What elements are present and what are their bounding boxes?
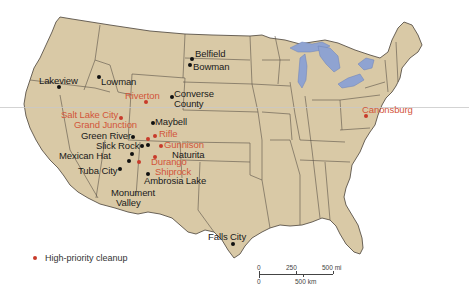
site-dot-rifle — [153, 134, 157, 138]
site-dot-shiprock — [137, 160, 141, 164]
site-label-rifle: Rifle — [159, 129, 178, 139]
site-label-mexican-hat: Mexican Hat — [59, 151, 111, 161]
site-dot-tuba-city — [118, 167, 122, 171]
legend-high-priority-label: High-priority cleanup — [45, 253, 128, 263]
scale-mi-500: 500 mi — [322, 264, 342, 271]
site-label-ambrosia-lake: Ambrosia Lake — [144, 176, 206, 186]
site-dot-naturita — [146, 143, 150, 147]
site-dot-slick-rock — [140, 144, 144, 148]
site-label-bowman: Bowman — [193, 62, 229, 72]
site-dot-mexican-hat — [130, 152, 134, 156]
site-label-lakeview: Lakeview — [39, 76, 78, 86]
site-dot-bowman — [188, 63, 192, 67]
scale-mi-250: 250 — [286, 264, 297, 271]
scale-tick — [303, 274, 304, 277]
scale-tick — [333, 271, 334, 274]
scale-km-0: 0 — [257, 278, 261, 285]
site-label-tuba-city: Tuba City — [78, 166, 117, 176]
site-label-belfield: Belfield — [195, 49, 225, 59]
site-dot-grand-junction — [146, 137, 150, 141]
site-label-lowman: Lowman — [101, 77, 136, 87]
legend-high-priority-dot — [33, 256, 37, 260]
site-label-riverton: Riverton — [125, 91, 160, 101]
site-label-canonsburg: Canonsburg — [362, 105, 413, 115]
site-dot-falls-city — [231, 242, 235, 246]
site-label-grand-junction: Grand Junction — [74, 120, 137, 130]
site-label-maybell: Maybell — [155, 117, 187, 127]
site-label-valley: Valley — [116, 198, 141, 208]
site-dot-green-river — [131, 135, 135, 139]
scale-tick — [296, 271, 297, 274]
site-dot-gunnison — [159, 144, 163, 148]
scale-km-500: 500 km — [295, 278, 316, 285]
site-label-falls-city: Falls City — [208, 232, 246, 242]
scale-tick — [259, 271, 260, 278]
site-dot-monument-valley — [127, 159, 131, 163]
scale-mi-0: 0 — [257, 264, 261, 271]
site-label-county: County — [174, 99, 204, 109]
scale-bar-line — [259, 274, 333, 275]
